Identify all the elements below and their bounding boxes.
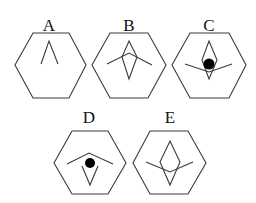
panel-d: D [54, 108, 126, 194]
panel-b: B [92, 16, 166, 98]
panel-label-e: E [165, 108, 175, 127]
caret-shape [41, 41, 58, 64]
panel-label-b: B [123, 16, 134, 35]
hexagon-a [15, 33, 86, 98]
diamond-shape [160, 141, 180, 185]
dot-shape [204, 59, 215, 70]
panel-label-c: C [203, 16, 214, 35]
panel-c: C [172, 16, 246, 98]
smile-shape [146, 162, 193, 172]
panel-label-a: A [43, 16, 56, 35]
dot-shape [85, 158, 95, 168]
puzzle-figure: A B C D E [0, 0, 256, 203]
diamond-shape [122, 41, 137, 79]
v-shape [82, 166, 98, 185]
panel-label-d: D [83, 108, 95, 127]
hexagon-b [92, 33, 166, 98]
panel-e: E [133, 108, 206, 194]
roof-shape [107, 53, 152, 65]
panel-a: A [15, 16, 86, 98]
